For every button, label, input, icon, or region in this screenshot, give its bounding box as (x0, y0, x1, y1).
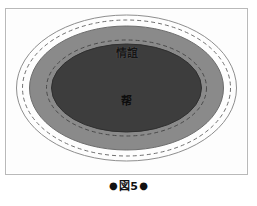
caption-bullet-right-icon: ● (139, 180, 148, 191)
ellipse-diagram-svg (5, 8, 248, 175)
concentric-ellipse-diagram: 情誼 帮 (5, 8, 248, 175)
caption-bullet-left-icon: ● (109, 180, 118, 191)
outer-ring-label: 情誼 (5, 48, 248, 59)
inner-core-label: 帮 (5, 96, 248, 107)
figure-caption: ●図5● (0, 181, 257, 192)
caption-text: 図5 (119, 180, 139, 193)
